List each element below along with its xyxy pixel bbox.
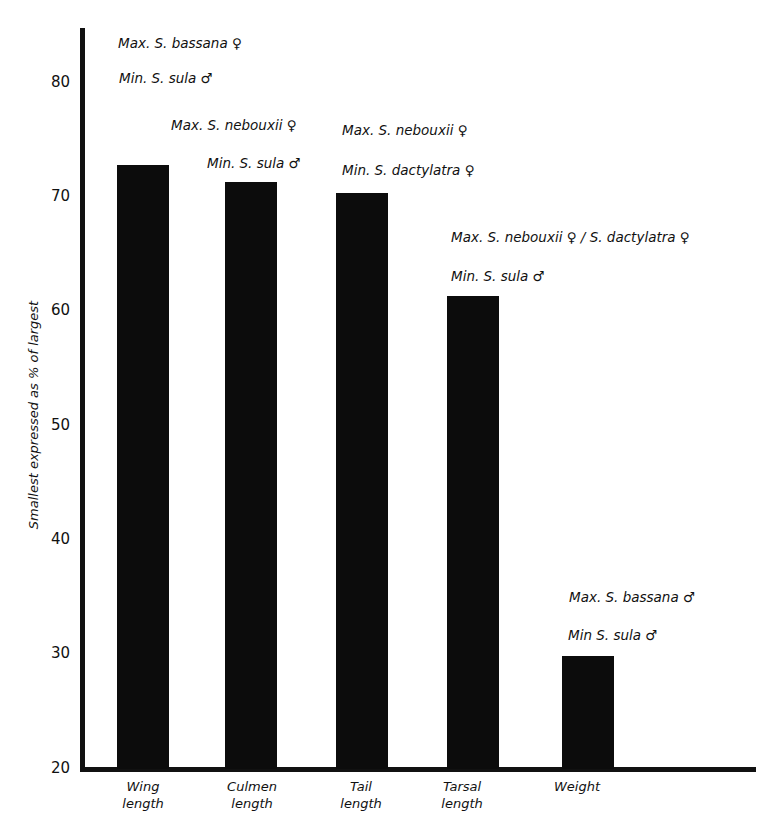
annotation-tail-max: Max. S. nebouxii ♀ — [342, 122, 468, 138]
x-label-culmen-length: Culmen length — [207, 778, 297, 812]
annotation-wing-min: Min. S. sula ♂ — [119, 70, 213, 86]
bar-tail-length — [336, 193, 388, 769]
y-tick-80: 80 — [36, 73, 70, 91]
y-tick-20: 20 — [36, 759, 70, 777]
annotation-tarsal-max: Max. S. nebouxii ♀ / S. dactylatra ♀ — [451, 229, 690, 245]
annotation-weight-min: Min S. sula ♂ — [568, 627, 657, 643]
y-axis-line — [80, 28, 85, 772]
bar-wing-length — [117, 165, 169, 769]
y-tick-30: 30 — [36, 644, 70, 662]
y-tick-70: 70 — [36, 187, 70, 205]
y-axis-label: Smallest expressed as % of largest — [26, 301, 41, 529]
bar-culmen-length — [225, 182, 277, 769]
bar-tarsal-length — [447, 296, 499, 769]
annotation-culmen-max: Max. S. nebouxii ♀ — [171, 117, 297, 133]
bar-weight — [562, 656, 614, 769]
annotation-culmen-min: Min. S. sula ♂ — [207, 155, 301, 171]
y-tick-60: 60 — [36, 301, 70, 319]
x-label-wing-length: Wing length — [98, 778, 188, 812]
annotation-tail-min: Min. S. dactylatra ♀ — [342, 162, 475, 178]
x-label-tail-length: Tail length — [316, 778, 406, 812]
annotation-weight-max: Max. S. bassana ♂ — [569, 589, 695, 605]
y-tick-40: 40 — [36, 530, 70, 548]
x-label-weight: Weight — [532, 778, 622, 795]
annotation-tarsal-min: Min. S. sula ♂ — [451, 268, 545, 284]
x-label-tarsal-length: Tarsal length — [417, 778, 507, 812]
x-axis-line — [80, 767, 756, 772]
annotation-wing-max: Max. S. bassana ♀ — [118, 35, 242, 51]
y-tick-50: 50 — [36, 416, 70, 434]
